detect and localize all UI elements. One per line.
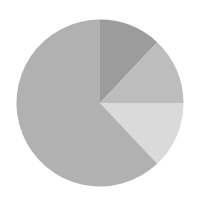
pie-slices — [17, 20, 184, 187]
pie-chart — [0, 0, 199, 209]
